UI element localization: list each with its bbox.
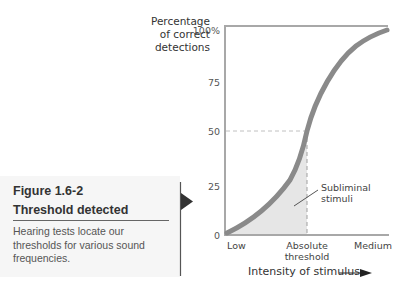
xtick-threshold-line-2: threshold <box>282 251 332 262</box>
pointer-triangle-icon <box>181 193 193 210</box>
annotation-line-2: stimuli <box>321 193 371 204</box>
ytick-50: 50 <box>180 126 220 137</box>
annotation-line-1: Subliminal <box>321 182 371 193</box>
ytick-100: 100% <box>180 25 220 36</box>
xtick-threshold-line-1: Absolute <box>282 240 332 251</box>
x-axis-label: Intensity of stimulus <box>248 265 360 278</box>
y-axis-label-line-3: detections <box>151 41 210 54</box>
subliminal-annotation: Subliminal stimuli <box>321 182 371 204</box>
xtick-absolute-threshold: Absolute threshold <box>282 240 332 262</box>
xtick-low: Low <box>227 240 246 251</box>
ytick-25: 25 <box>180 181 220 192</box>
arrow-right-icon <box>360 269 372 277</box>
ytick-0: 0 <box>180 230 220 241</box>
xtick-medium: Medium <box>354 240 392 251</box>
ytick-75: 75 <box>180 77 220 88</box>
subliminal-region <box>228 131 307 235</box>
